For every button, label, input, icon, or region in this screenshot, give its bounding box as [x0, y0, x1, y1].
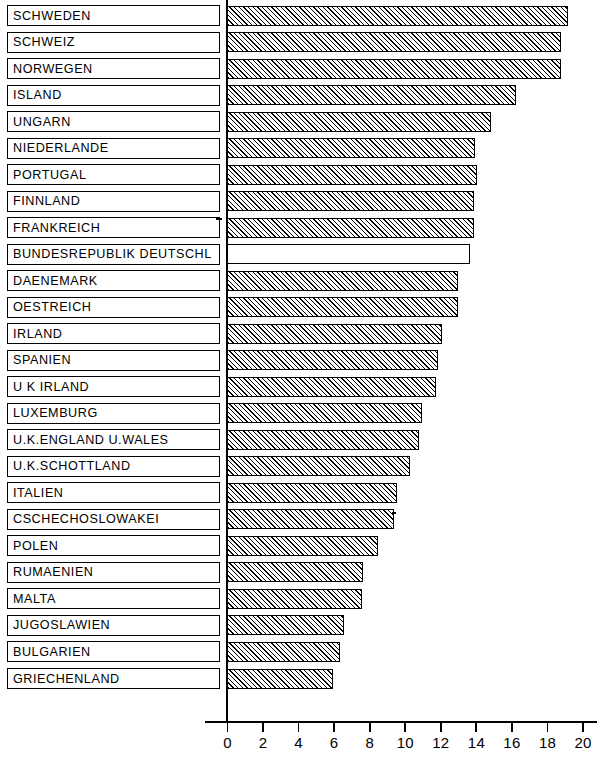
category-label-box: LUXEMBURG	[7, 403, 220, 424]
chart-row: SPANIEN	[0, 348, 604, 375]
bar	[227, 350, 439, 370]
category-label-box: ITALIEN	[7, 482, 220, 503]
chart-row: CSCHECHOSLOWAKEI	[0, 507, 604, 534]
bar	[227, 297, 458, 317]
chart-row: OESTREICH	[0, 295, 604, 322]
category-label: IRLAND	[13, 327, 63, 340]
category-label: SCHWEDEN	[13, 9, 91, 22]
category-label: ISLAND	[13, 89, 62, 102]
x-axis-tick-label: 10	[397, 735, 414, 750]
x-axis-tick	[333, 722, 335, 732]
x-axis-tick-label: 20	[574, 735, 591, 750]
chart-row: MALTA	[0, 586, 604, 613]
chart-row: U.K.SCHOTTLAND	[0, 454, 604, 481]
x-axis-tick-label: 2	[259, 735, 268, 750]
x-axis-tick-label: 14	[468, 735, 485, 750]
chart-row: FINNLAND	[0, 189, 604, 216]
x-axis-tick	[511, 722, 513, 732]
category-label-box: U K IRLAND	[7, 376, 220, 397]
bar	[227, 165, 478, 185]
chart-row: SCHWEIZ	[0, 30, 604, 57]
chart-row: BUNDESREPUBLIK DEUTSCHL	[0, 242, 604, 269]
bar	[227, 138, 476, 158]
category-label-box: BUNDESREPUBLIK DEUTSCHL	[7, 244, 220, 265]
bar	[227, 430, 419, 450]
category-label: CSCHECHOSLOWAKEI	[13, 513, 159, 526]
category-label: U.K.ENGLAND U.WALES	[13, 434, 169, 447]
category-label: FRANKREICH	[13, 221, 100, 234]
bar	[227, 218, 474, 238]
category-label: UNGARN	[13, 115, 71, 128]
category-label: BULGARIEN	[13, 646, 91, 659]
x-axis-tick	[582, 722, 584, 732]
chart-row: NIEDERLANDE	[0, 136, 604, 163]
chart-row: DAENEMARK	[0, 268, 604, 295]
bar	[227, 669, 334, 689]
chart-row: UNGARN	[0, 109, 604, 136]
scan-speck	[392, 512, 396, 514]
category-label: MALTA	[13, 593, 56, 606]
category-label: OESTREICH	[13, 301, 91, 314]
bar	[227, 244, 471, 264]
category-label-box: POLEN	[7, 535, 220, 556]
x-axis-tick	[262, 722, 264, 732]
chart-row: ISLAND	[0, 83, 604, 110]
x-axis-tick	[440, 722, 442, 732]
bar	[227, 562, 364, 582]
category-label-box: NORWEGEN	[7, 58, 220, 79]
category-label-box: SCHWEIZ	[7, 32, 220, 53]
chart-row: BULGARIEN	[0, 639, 604, 666]
category-label: BUNDESREPUBLIK DEUTSCHL	[13, 248, 212, 261]
category-label-box: DAENEMARK	[7, 270, 220, 291]
category-label: FINNLAND	[13, 195, 80, 208]
horizontal-bar-chart: SCHWEDENSCHWEIZNORWEGENISLANDUNGARNNIEDE…	[0, 0, 604, 761]
category-label-box: SPANIEN	[7, 350, 220, 371]
chart-row: ITALIEN	[0, 480, 604, 507]
chart-row: RUMAENIEN	[0, 560, 604, 587]
x-axis-tick-label: 8	[365, 735, 374, 750]
category-label: ITALIEN	[13, 487, 64, 500]
bar	[227, 191, 474, 211]
category-label-box: IRLAND	[7, 323, 220, 344]
category-label: SPANIEN	[13, 354, 71, 367]
bar	[227, 112, 492, 132]
bar	[227, 377, 437, 397]
scan-speck	[216, 218, 222, 220]
x-axis-tick-label: 12	[432, 735, 449, 750]
chart-row: GRIECHENLAND	[0, 666, 604, 693]
bar	[227, 642, 341, 662]
category-label: POLEN	[13, 540, 58, 553]
x-axis-tick-label: 16	[503, 735, 520, 750]
category-label: U.K.SCHOTTLAND	[13, 460, 131, 473]
x-axis-tick	[369, 722, 371, 732]
chart-row: FRANKREICH	[0, 215, 604, 242]
category-label-box: OESTREICH	[7, 297, 220, 318]
bar	[227, 85, 517, 105]
category-label: SCHWEIZ	[13, 36, 75, 49]
bar	[227, 403, 423, 423]
category-label-box: ISLAND	[7, 85, 220, 106]
x-axis-tick	[475, 722, 477, 732]
category-label: DAENEMARK	[13, 274, 98, 287]
category-label-box: U.K.SCHOTTLAND	[7, 456, 220, 477]
x-axis-tick-label: 4	[294, 735, 303, 750]
bar	[227, 32, 561, 52]
category-label-box: MALTA	[7, 588, 220, 609]
category-label-box: SCHWEDEN	[7, 5, 220, 26]
x-axis-tick	[404, 722, 406, 732]
chart-plot-area: SCHWEDENSCHWEIZNORWEGENISLANDUNGARNNIEDE…	[0, 0, 604, 718]
bar	[227, 615, 344, 635]
chart-row: IRLAND	[0, 321, 604, 348]
category-label: GRIECHENLAND	[13, 672, 120, 685]
category-label-box: UNGARN	[7, 111, 220, 132]
chart-row: SCHWEDEN	[0, 3, 604, 30]
bar	[227, 589, 362, 609]
category-label: PORTUGAL	[13, 168, 86, 181]
category-label-box: RUMAENIEN	[7, 562, 220, 583]
category-label: NORWEGEN	[13, 62, 93, 75]
x-axis-tick	[227, 722, 229, 732]
bar	[227, 509, 394, 529]
chart-row: NORWEGEN	[0, 56, 604, 83]
x-axis-tick	[298, 722, 300, 732]
chart-row: U.K.ENGLAND U.WALES	[0, 427, 604, 454]
